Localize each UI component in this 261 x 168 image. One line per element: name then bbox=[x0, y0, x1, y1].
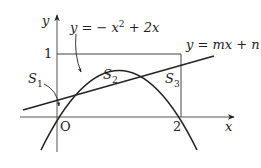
region-s1-label: S1 bbox=[28, 72, 43, 89]
origin-label: O bbox=[60, 120, 71, 133]
line-equation-label: y = mx + n bbox=[186, 38, 260, 51]
x-tick-2-label: 2 bbox=[173, 120, 181, 133]
parabola-equation-label: y = − x2 + 2x bbox=[70, 20, 159, 34]
equation-pointer-arrow bbox=[76, 34, 81, 72]
y-axis-label: y bbox=[42, 14, 49, 27]
region-s2-label: S2 bbox=[103, 68, 118, 85]
y-tick-1-label: 1 bbox=[44, 47, 52, 60]
line-mx-plus-n bbox=[23, 56, 214, 110]
parabola-eq-lhs: y = − x bbox=[70, 20, 119, 35]
x-axis-label: x bbox=[225, 120, 232, 133]
parabola-eq-rhs: + 2x bbox=[125, 20, 160, 35]
region-s3-label: S3 bbox=[165, 72, 180, 89]
